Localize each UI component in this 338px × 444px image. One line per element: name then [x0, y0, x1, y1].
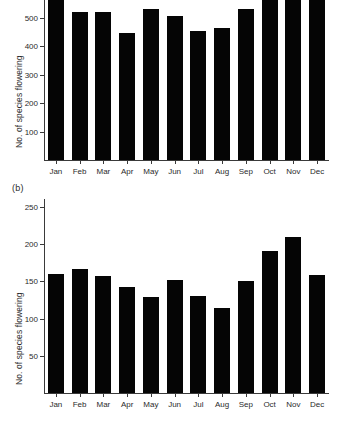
x-tick — [222, 160, 223, 164]
y-tick-label: 200 — [25, 240, 38, 249]
y-tick-label: 400 — [25, 42, 38, 51]
x-tick-label: Oct — [263, 167, 275, 176]
x-tick-label: Apr — [121, 400, 133, 409]
bar — [285, 237, 301, 393]
bar — [238, 281, 254, 393]
x-tick — [175, 393, 176, 397]
y-tick-label: 100 — [25, 314, 38, 323]
bar — [143, 9, 159, 160]
x-tick — [293, 160, 294, 164]
x-tick — [246, 160, 247, 164]
x-tick-label: Mar — [96, 400, 110, 409]
panel-b-y-axis-label: No. of species flowering — [14, 292, 24, 385]
chart-panel-b: (b) No. of species flowering 50100150200… — [0, 180, 338, 444]
x-tick — [151, 160, 152, 164]
x-tick — [175, 160, 176, 164]
bar — [262, 0, 278, 160]
panel-a-x-axis — [44, 160, 329, 161]
bar — [143, 297, 159, 393]
x-tick — [317, 160, 318, 164]
x-tick-label: Jul — [193, 167, 203, 176]
x-tick — [198, 160, 199, 164]
y-tick-label: 250 — [25, 203, 38, 212]
x-tick-label: Apr — [121, 167, 133, 176]
bar — [167, 280, 183, 393]
y-tick — [40, 46, 44, 47]
bar — [167, 16, 183, 160]
x-tick — [293, 393, 294, 397]
bar — [72, 269, 88, 393]
x-tick — [56, 160, 57, 164]
x-tick — [80, 393, 81, 397]
x-tick — [270, 393, 271, 397]
x-tick-label: Jan — [49, 167, 62, 176]
y-tick-label: 50 — [29, 351, 38, 360]
x-tick — [56, 393, 57, 397]
y-tick — [40, 356, 44, 357]
bar — [48, 274, 64, 393]
x-tick-label: Aug — [215, 167, 229, 176]
x-tick — [103, 393, 104, 397]
x-tick — [317, 393, 318, 397]
x-tick — [198, 393, 199, 397]
bar — [48, 0, 64, 160]
bar — [214, 308, 230, 393]
chart-panel-a: No. of species flowering 100200300400500… — [0, 0, 338, 180]
x-tick-label: Jun — [168, 167, 181, 176]
x-tick-label: Nov — [286, 167, 300, 176]
x-tick — [127, 160, 128, 164]
x-tick-label: Feb — [73, 167, 87, 176]
x-tick-label: May — [143, 167, 158, 176]
x-tick — [127, 393, 128, 397]
x-tick — [151, 393, 152, 397]
bar — [95, 12, 111, 160]
bar — [262, 251, 278, 393]
bar — [309, 275, 325, 393]
y-tick — [40, 103, 44, 104]
y-tick — [40, 207, 44, 208]
bar — [72, 12, 88, 160]
bar — [238, 9, 254, 160]
x-tick — [103, 160, 104, 164]
x-tick — [270, 160, 271, 164]
y-tick — [40, 132, 44, 133]
x-tick — [246, 393, 247, 397]
bar — [309, 0, 325, 160]
x-tick — [80, 160, 81, 164]
x-tick-label: Feb — [73, 400, 87, 409]
panel-b-x-axis — [44, 393, 329, 394]
y-tick-label: 200 — [25, 99, 38, 108]
panel-b-plot-area: 50100150200250JanFebMarAprMayJunJulAugSe… — [44, 199, 329, 393]
y-tick — [40, 244, 44, 245]
x-tick-label: Aug — [215, 400, 229, 409]
bar — [190, 296, 206, 393]
y-tick-label: 300 — [25, 70, 38, 79]
x-tick-label: Jun — [168, 400, 181, 409]
x-tick-label: Mar — [96, 167, 110, 176]
panel-b-tag: (b) — [12, 183, 24, 193]
y-tick — [40, 281, 44, 282]
x-tick-label: Sep — [239, 167, 253, 176]
y-tick — [40, 18, 44, 19]
y-tick-label: 500 — [25, 14, 38, 23]
x-tick — [222, 393, 223, 397]
x-tick-label: Sep — [239, 400, 253, 409]
bar — [119, 33, 135, 160]
y-tick-label: 100 — [25, 127, 38, 136]
bar — [95, 276, 111, 393]
y-tick — [40, 75, 44, 76]
bar — [190, 31, 206, 160]
figure-root: No. of species flowering 100200300400500… — [0, 0, 338, 444]
y-tick — [40, 319, 44, 320]
x-tick-label: May — [143, 400, 158, 409]
x-tick-label: Jan — [49, 400, 62, 409]
bar — [285, 0, 301, 160]
panel-a-plot-area: 100200300400500JanFebMarAprMayJunJulAugS… — [44, 0, 329, 160]
x-tick-label: Dec — [310, 400, 324, 409]
panel-b-bars — [44, 199, 329, 393]
bar — [214, 28, 230, 160]
x-tick-label: Oct — [263, 400, 275, 409]
panel-a-y-axis-label: No. of species flowering — [14, 55, 24, 148]
bar — [119, 287, 135, 393]
x-tick-label: Dec — [310, 167, 324, 176]
